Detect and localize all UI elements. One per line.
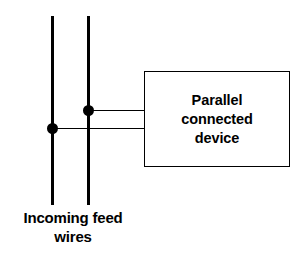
caption-line-1: Incoming feed — [0, 208, 146, 227]
left-feed-wire — [51, 16, 54, 205]
diagram-canvas: Parallel connected device Incoming feed … — [0, 0, 305, 261]
incoming-feed-wires-caption: Incoming feed wires — [0, 208, 146, 246]
right-wire-junction-dot — [83, 105, 94, 116]
parallel-connected-device-box: Parallel connected device — [144, 71, 290, 167]
caption-line-2: wires — [0, 227, 146, 246]
device-label-line-1: Parallel — [192, 91, 243, 110]
device-label-line-3: device — [195, 129, 240, 148]
lower-connection-lead — [52, 128, 144, 129]
upper-connection-lead — [88, 110, 144, 111]
device-label-line-2: connected — [181, 110, 253, 129]
left-wire-junction-dot — [47, 123, 58, 134]
